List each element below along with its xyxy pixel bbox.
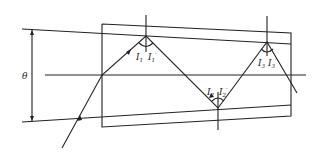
lower-surface xyxy=(22,105,291,122)
label-I3-prime: I3′ xyxy=(267,58,277,69)
label-I1: I1 xyxy=(135,52,143,63)
light-ray xyxy=(62,36,297,148)
arrow-head-up xyxy=(30,30,34,35)
label-I1-prime: I1′ xyxy=(147,52,157,63)
reflection-diagram: θ I1 I1′ I2 I2′ I3 I3′ xyxy=(0,0,318,160)
theta-label: θ xyxy=(22,71,28,81)
label-I3: I3 xyxy=(257,58,266,69)
arrow-head-down xyxy=(30,116,34,121)
ray-arrow-2 xyxy=(126,49,131,55)
label-I2: I2 xyxy=(206,87,215,98)
